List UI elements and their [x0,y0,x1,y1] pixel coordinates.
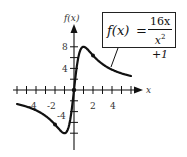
x-tick-label-4: 4 [110,101,116,111]
point-x-neg2 [53,123,57,127]
y-tick-label-4: 4 [62,64,68,74]
function-curve-right [74,47,131,90]
denominator-exponent: 2 [161,33,165,41]
y-axis-arrow-icon [71,24,78,33]
x-axis-arrow-icon [134,87,143,94]
formula-denominator: x2 +1 [147,30,173,62]
formula-pointer-line [111,48,118,67]
point-x-2 [91,53,95,57]
formula-equals: = [136,23,147,38]
x-axis-label: x [146,85,151,95]
formula-fraction: 16x x2 +1 [147,15,173,62]
x-tick-label-neg2: -2 [47,101,56,111]
y-axis-label: f(x) [63,13,80,23]
origin-point [72,88,76,92]
formula-numerator: 16x [147,15,173,29]
y-tick-label-neg4: -4 [57,111,66,121]
x-tick-label-2: 2 [90,101,96,111]
formula-box: f(x) = 16x x2 +1 [102,12,176,48]
denominator-rest: +1 [152,48,168,61]
y-tick-label-8: 8 [62,42,68,52]
formula-lhs: f(x) [107,23,129,38]
